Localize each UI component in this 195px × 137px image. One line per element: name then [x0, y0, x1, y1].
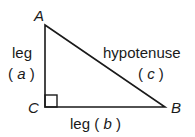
vertex-c-label: C	[28, 100, 39, 115]
side-a-letter: a	[17, 65, 25, 82]
paren-close: )	[159, 65, 164, 82]
vertex-a-label: A	[34, 8, 44, 23]
paren-open: (	[138, 65, 143, 82]
side-c-letter: c	[147, 65, 155, 82]
side-b-name: leg	[70, 115, 90, 132]
side-a-name: leg	[12, 45, 32, 60]
paren-open: (	[8, 65, 13, 82]
right-angle-marker	[45, 95, 57, 107]
paren-close: )	[116, 115, 121, 132]
side-c-name: hypotenuse	[103, 45, 181, 60]
paren-open: (	[94, 115, 99, 132]
side-a-symbol: ( a )	[8, 66, 35, 81]
side-c-symbol: ( c )	[138, 66, 164, 81]
paren-close: )	[30, 65, 35, 82]
side-b-label: leg ( b )	[70, 116, 121, 131]
vertex-b-label: B	[171, 100, 181, 115]
side-b-letter: b	[103, 115, 111, 132]
